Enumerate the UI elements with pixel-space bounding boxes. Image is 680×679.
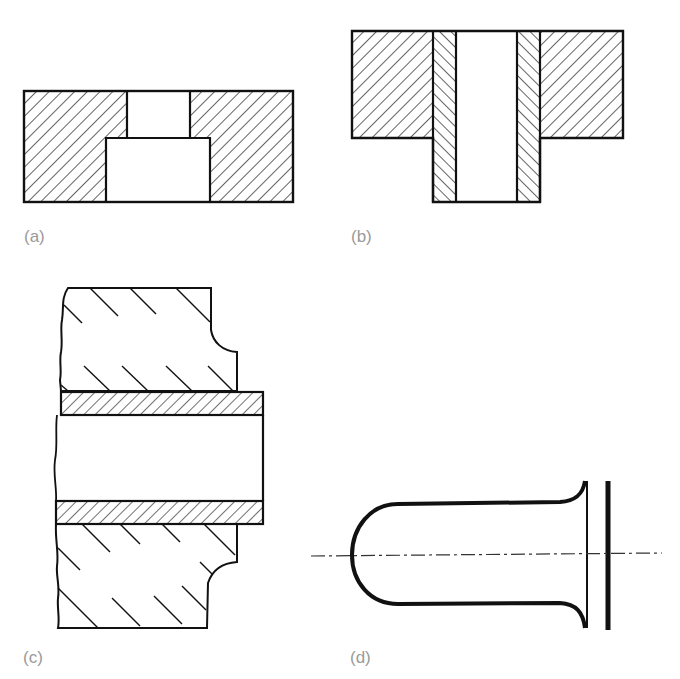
panel-c-label: (c) bbox=[23, 649, 43, 666]
panel-a-drawing bbox=[24, 91, 293, 202]
panel-c-drawing bbox=[54, 288, 263, 628]
panel-d-drawing bbox=[311, 481, 662, 630]
panel-a-label: (a) bbox=[24, 228, 45, 245]
technical-drawing-canvas bbox=[0, 0, 680, 679]
panel-b-drawing bbox=[352, 31, 623, 202]
panel-d-label: (d) bbox=[350, 649, 371, 666]
panel-b-label: (b) bbox=[351, 228, 372, 245]
